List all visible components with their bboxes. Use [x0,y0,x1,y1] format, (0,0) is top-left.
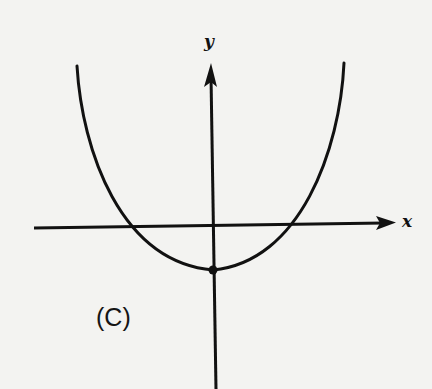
graph-canvas [0,0,432,389]
y-axis [211,76,216,389]
vertex-point [209,266,218,275]
parabola-figure: y x (C) [0,0,432,389]
panel-label: (C) [96,305,131,330]
y-axis-label: y [204,33,214,50]
x-axis-label: x [402,213,412,230]
x-axis [34,223,384,228]
